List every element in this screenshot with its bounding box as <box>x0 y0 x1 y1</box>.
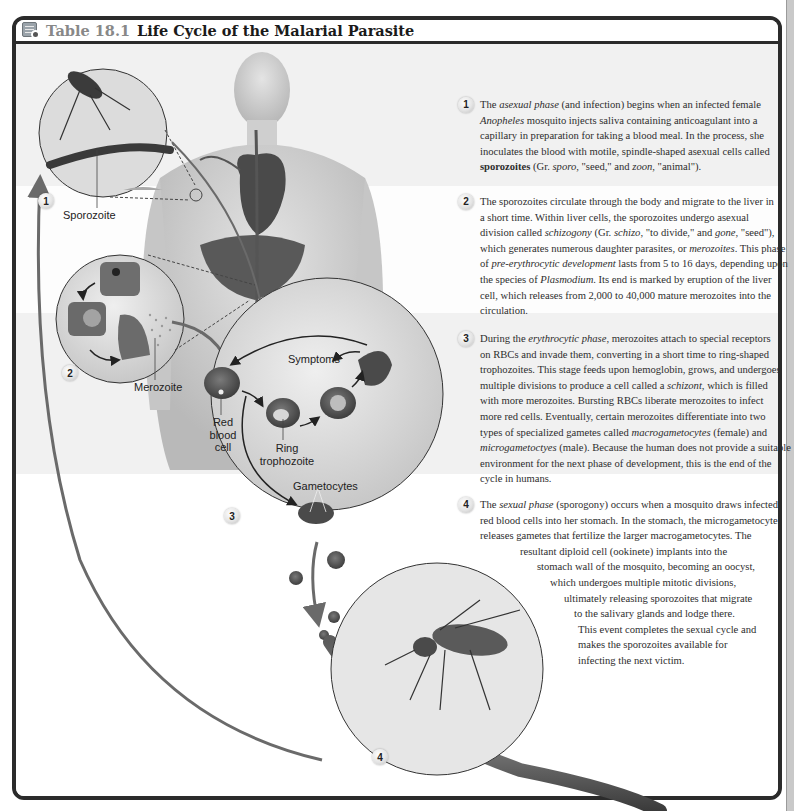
step-2-text: The sporozoites circulate through the bo… <box>458 194 758 319</box>
text-line: resultant diploid cell (ookinete) implan… <box>480 544 758 560</box>
text-line: a short time. Within liver cells, the sp… <box>480 210 758 226</box>
label-symptoms: Symptoms <box>288 353 340 366</box>
text-line: on RBCs and invade them, converting in a… <box>480 347 758 363</box>
step-badge-4: 4 <box>458 497 474 513</box>
step-2: 2 The sporozoites circulate through the … <box>458 194 758 319</box>
step-4-text: The sexual phase (sporogony) occurs when… <box>458 497 758 669</box>
text-line: The sexual phase (sporogony) occurs when… <box>480 497 758 513</box>
diagram-badge-2: 2 <box>62 365 78 381</box>
step-3: 3 During the erythrocytic phase, merozoi… <box>458 331 758 487</box>
text-line: capillary in preparation for taking a bl… <box>480 128 758 144</box>
label-red-blood-cell: Red blood cell <box>205 416 241 454</box>
label-gametocytes: Gametocytes <box>293 480 358 493</box>
diagram-badge-4: 4 <box>372 749 388 765</box>
text-line: of pre-erythrocytic development lasts fr… <box>480 256 758 272</box>
step-badge-3: 3 <box>458 331 474 347</box>
text-line: The sporozoites circulate through the bo… <box>480 194 758 210</box>
text-line: circulation. <box>480 303 758 319</box>
text-line: to the salivary glands and lodge there. <box>480 606 758 622</box>
text-line: cycle in humans. <box>480 471 758 487</box>
text-line: This event completes the sexual cycle an… <box>480 622 758 638</box>
text-line: microgametoctyes (male). Because the hum… <box>480 440 758 456</box>
diagram-badge-1: 1 <box>38 193 54 209</box>
step-1-text: The asexual phase (and infection) begins… <box>458 97 758 175</box>
text-line: red blood cells into her stomach. In the… <box>480 513 758 529</box>
step-1: 1 The asexual phase (and infection) begi… <box>458 97 758 175</box>
step-badge-2: 2 <box>458 194 474 210</box>
text-line: which undergoes multiple mitotic divisio… <box>480 575 758 591</box>
text-line: types of specialized gametes called macr… <box>480 425 758 441</box>
label-merozoite: Merozoite <box>134 381 182 394</box>
step-3-text: During the erythrocytic phase, merozoite… <box>458 331 758 487</box>
label-ring-trophozoite: Ring trophozoite <box>252 442 322 467</box>
text-line: releases gametes that fertilize the larg… <box>480 528 758 544</box>
diagram-badge-3: 3 <box>224 508 240 524</box>
text-line: sporozoites (Gr. sporo, "seed," and zoon… <box>480 159 758 175</box>
step-4: 4 The sexual phase (sporogony) occurs wh… <box>458 497 758 669</box>
text-line: inoculates the blood with motile, spindl… <box>480 144 758 160</box>
text-line: which generates numerous daughter parasi… <box>480 241 758 257</box>
step-badge-1: 1 <box>458 97 474 113</box>
text-line: multiple divisions to produce a cell cal… <box>480 378 758 394</box>
text-line: trophozoites. This stage feeds upon hemo… <box>480 362 758 378</box>
text-line: division called schizogony (Gr. schizo, … <box>480 225 758 241</box>
text-line: stomach wall of the mosquito, becoming a… <box>480 559 758 575</box>
text-line: with more merozoites. Bursting RBCs libe… <box>480 393 758 409</box>
text-line: the species of Plasmodium. Its end is ma… <box>480 272 758 288</box>
label-sporozoite: Sporozoite <box>63 209 116 222</box>
text-line: During the erythrocytic phase, merozoite… <box>480 331 758 347</box>
text-line: infecting the next victim. <box>480 653 758 669</box>
text-line: makes the sporozoites available for <box>480 637 758 653</box>
text-line: The asexual phase (and infection) begins… <box>480 97 758 113</box>
text-line: ultimately releasing sporozoites that mi… <box>480 591 758 607</box>
text-line: cell, which releases from 2,000 to 40,00… <box>480 288 758 304</box>
text-line: environment for the next phase of develo… <box>480 456 758 472</box>
text-line: more red cells. Eventually, certain mero… <box>480 409 758 425</box>
text-line: Anopheles mosquito injects saliva contai… <box>480 113 758 129</box>
